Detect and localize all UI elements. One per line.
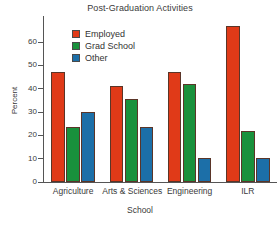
y-axis-label: Percent xyxy=(10,71,19,131)
legend-label: Other xyxy=(85,53,108,63)
y-tick-mark xyxy=(38,112,43,113)
x-category-label: ILR xyxy=(219,186,277,196)
bar-agriculture-employed xyxy=(51,72,65,182)
y-tick-label: 50 xyxy=(0,61,37,69)
legend-label: Employed xyxy=(85,29,125,39)
x-category-label: Arts & Sciences xyxy=(102,186,160,196)
x-category-label: Agriculture xyxy=(44,186,102,196)
bar-ilr-employed xyxy=(226,26,240,182)
bar-agriculture-grad-school xyxy=(66,127,80,182)
bar-agriculture-other xyxy=(81,112,95,182)
bar-ilr-grad-school xyxy=(241,131,255,182)
y-tick-label: 30 xyxy=(0,108,37,116)
y-tick-mark xyxy=(38,158,43,159)
chart-title: Post-Graduation Activities xyxy=(0,3,280,13)
y-tick-label: 0 xyxy=(0,178,37,186)
y-tick-label: 20 xyxy=(0,131,37,139)
bar-engineering-employed xyxy=(168,72,182,182)
bar-arts-sciences-grad-school xyxy=(125,99,139,182)
legend-item-employed: Employed xyxy=(72,28,162,40)
legend-item-grad-school: Grad School xyxy=(72,40,162,52)
bar-ilr-other xyxy=(256,158,270,183)
x-category-label: Engineering xyxy=(161,186,219,196)
y-tick-mark xyxy=(38,88,43,89)
bar-engineering-grad-school xyxy=(183,84,197,182)
bar-engineering-other xyxy=(198,158,212,183)
legend-label: Grad School xyxy=(85,41,135,51)
chart-figure: Post-Graduation Activities 0102030405060… xyxy=(0,0,280,225)
x-axis-line xyxy=(43,182,277,183)
y-tick-label: 60 xyxy=(0,38,37,46)
y-tick-mark xyxy=(38,135,43,136)
legend-swatch-icon xyxy=(72,30,80,38)
legend-item-other: Other xyxy=(72,52,162,64)
x-axis-label: School xyxy=(0,205,280,215)
y-tick-label: 40 xyxy=(0,85,37,93)
bar-arts-sciences-other xyxy=(140,127,154,182)
legend-swatch-icon xyxy=(72,42,80,50)
y-tick-mark xyxy=(38,42,43,43)
y-tick-label: 10 xyxy=(0,155,37,163)
y-tick-mark xyxy=(38,65,43,66)
legend-swatch-icon xyxy=(72,54,80,62)
y-tick-mark xyxy=(38,182,43,183)
chart-legend: EmployedGrad SchoolOther xyxy=(72,28,162,64)
bar-arts-sciences-employed xyxy=(110,86,124,182)
